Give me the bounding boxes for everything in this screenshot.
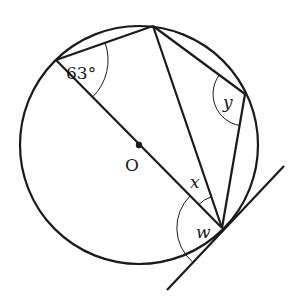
chord-BC bbox=[153, 26, 245, 94]
angle-label-x: x bbox=[190, 172, 200, 192]
center-point bbox=[136, 142, 142, 148]
chord-BD bbox=[153, 26, 222, 228]
angle-label-63: 63° bbox=[66, 63, 96, 83]
center-label-O: O bbox=[125, 155, 139, 175]
chord-CD bbox=[222, 94, 245, 228]
tangent-line bbox=[167, 166, 284, 290]
circle-theorem-diagram: 63° y O x w bbox=[0, 0, 293, 305]
angle-arc-x bbox=[199, 197, 212, 205]
angle-label-y: y bbox=[222, 92, 233, 112]
angle-label-w: w bbox=[196, 222, 211, 242]
